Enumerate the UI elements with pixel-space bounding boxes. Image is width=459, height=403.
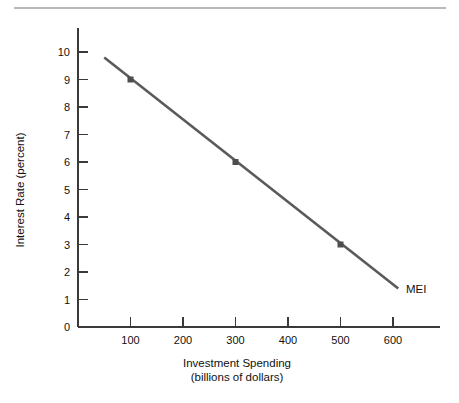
y-tick-label-1: 1: [64, 294, 70, 306]
y-tick-label-0: 0: [64, 321, 70, 333]
x-axis-title-line2: (billions of dollars): [191, 371, 284, 383]
y-tick-label-2: 2: [64, 266, 70, 278]
x-tick-group: [131, 317, 394, 327]
x-axis-title-line1: Investment Spending: [183, 357, 291, 369]
data-point-marker-500-3: [338, 242, 344, 248]
x-tick-label-500: 500: [331, 334, 349, 346]
x-tick-label-100: 100: [121, 334, 139, 346]
mei-series-label: MEI: [406, 283, 426, 295]
y-tick-label-6: 6: [64, 156, 70, 168]
y-tick-label-4: 4: [64, 211, 70, 223]
y-tick-label-8: 8: [64, 101, 70, 113]
mei-curve-line: [104, 58, 398, 289]
y-tick-label-group: 0 1 2 3 4 5 6 7 8 9 10: [58, 46, 70, 333]
figure-container: 0 1 2 3 4 5 6 7 8 9 10 100 200 300 400: [0, 0, 459, 403]
x-tick-label-200: 200: [174, 334, 192, 346]
x-tick-label-300: 300: [226, 334, 244, 346]
x-tick-label-group: 100 200 300 400 500 600: [121, 334, 402, 346]
x-tick-label-600: 600: [384, 334, 402, 346]
y-tick-label-5: 5: [64, 184, 70, 196]
data-point-marker-100-9: [128, 77, 134, 83]
y-tick-label-10: 10: [58, 46, 70, 58]
y-tick-group: [78, 52, 88, 327]
y-tick-label-7: 7: [64, 129, 70, 141]
x-tick-label-400: 400: [279, 334, 297, 346]
y-tick-label-9: 9: [64, 74, 70, 86]
mei-line-chart: 0 1 2 3 4 5 6 7 8 9 10 100 200 300 400: [0, 0, 459, 403]
y-axis-title: Interest Rate (percent): [14, 132, 26, 247]
data-point-marker-300-6: [233, 159, 239, 165]
y-tick-label-3: 3: [64, 239, 70, 251]
